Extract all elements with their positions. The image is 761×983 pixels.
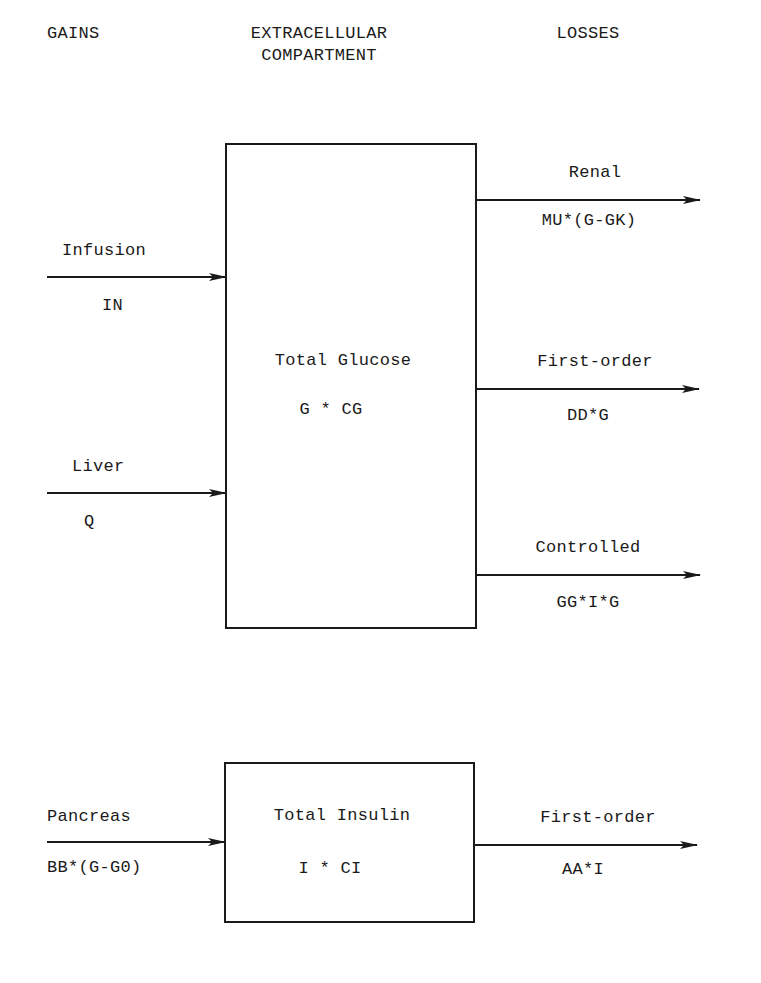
infusion-label: Infusion — [62, 241, 146, 261]
renal-expression: MU*(G-GK) — [542, 211, 637, 231]
liver-expression: Q — [84, 512, 95, 532]
pancreas-label: Pancreas — [47, 807, 131, 827]
first-order-insulin-expression: AA*I — [562, 860, 604, 880]
controlled-label: Controlled — [535, 538, 640, 558]
controlled-expression: GG*I*G — [556, 593, 619, 613]
first-order-glucose-expression: DD*G — [567, 406, 609, 426]
pancreas-expression: BB*(G-G0) — [47, 858, 142, 878]
flow-arrows — [0, 0, 761, 983]
first-order-insulin-label: First-order — [540, 808, 656, 828]
first-order-glucose-label: First-order — [537, 352, 653, 372]
liver-label: Liver — [72, 457, 125, 477]
infusion-expression: IN — [102, 296, 123, 316]
renal-label: Renal — [569, 163, 622, 183]
